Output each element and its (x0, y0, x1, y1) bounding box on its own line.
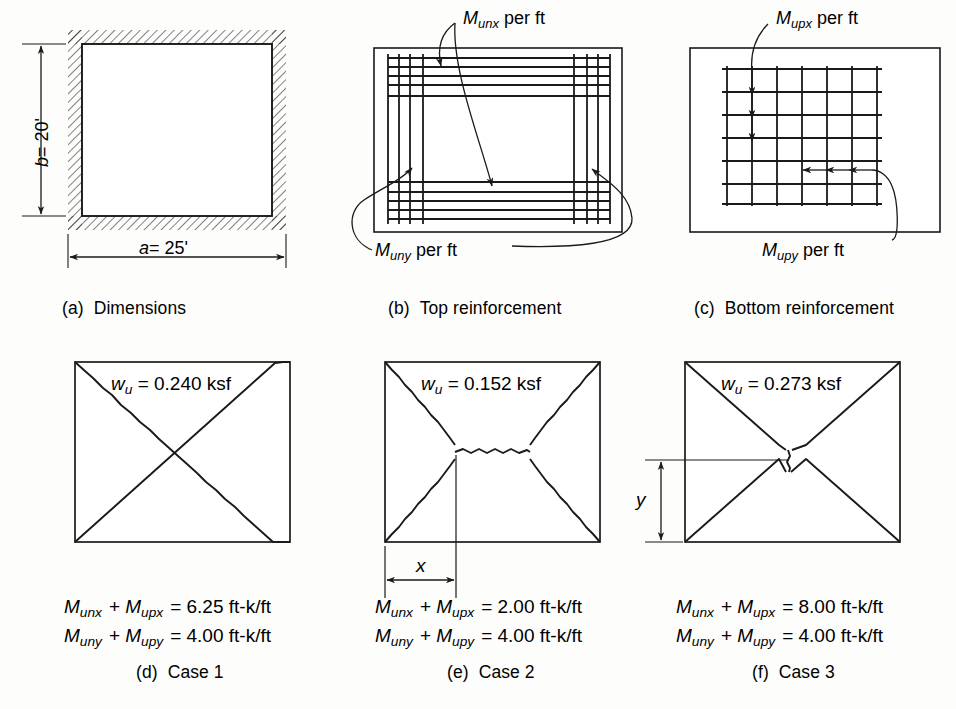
panel-e-eq1-term2: + Mupx (420, 596, 474, 620)
wu-symbol: w (111, 373, 125, 394)
wu-value: = 0.273 ksf (748, 373, 841, 394)
panel-d-caption-text: Case 1 (168, 662, 224, 682)
panel-a-caption-prefix: (a) (62, 298, 84, 318)
panel-e-eq1-rhs: = 2.00 ft-k/ft (481, 596, 582, 618)
panel-c-caption-text: Bottom reinforcement (725, 298, 894, 318)
mupx-symbol: M (776, 8, 791, 28)
panel-e-caption-text: Case 2 (479, 662, 535, 682)
panel-a-caption: (a) Dimensions (62, 300, 186, 318)
panel-b-muny-label: Muny per ft (375, 241, 457, 263)
mupy-suffix: per ft (803, 240, 844, 260)
panel-d-eq1-term2: + Mupx (109, 596, 163, 620)
panel-f-eq1-term2: + Mupx (721, 596, 775, 620)
panel-d-equations: Munx + Mupx = 6.25 ft-k/ft Muny + Mupy =… (64, 596, 271, 649)
panel-e-eq2-term2: + Mupy (420, 625, 474, 649)
panel-f-eq1-term1: Munx (676, 596, 714, 620)
width-symbol: a (139, 238, 149, 258)
panel-f-load-label: wu = 0.273 ksf (721, 374, 841, 397)
panel-f-caption: (f) Case 3 (752, 664, 835, 682)
panel-a-slab-outline (82, 44, 272, 216)
mupy-symbol: M (762, 240, 777, 260)
panel-c-mupx-label: Mupx per ft (776, 9, 858, 31)
panel-c-bottom-reinforcement (690, 24, 940, 240)
munx-symbol: M (463, 8, 478, 28)
panel-a-caption-text: Dimensions (94, 298, 186, 318)
panel-b-caption-text: Top reinforcement (420, 298, 562, 318)
panel-a-dimensions (22, 30, 286, 268)
panel-f-eq2-term1: Muny (676, 625, 714, 649)
wu-value: = 0.152 ksf (448, 373, 541, 394)
panel-f-equations: Munx + Mupx = 8.00 ft-k/ft Muny + Mupy =… (676, 596, 883, 649)
panel-f-eq2-term2: + Mupy (721, 625, 775, 649)
panel-e-x-label: x (416, 556, 426, 575)
wu-subscript: u (435, 382, 443, 397)
muny-symbol: M (375, 240, 390, 260)
panel-f-eq1-rhs: = 8.00 ft-k/ft (782, 596, 883, 618)
panel-f-caption-text: Case 3 (779, 662, 835, 682)
panel-f-caption-prefix: (f) (752, 662, 769, 682)
panel-d-load-label: wu = 0.240 ksf (111, 374, 231, 397)
panel-c-caption-prefix: (c) (694, 298, 715, 318)
munx-subscript: unx (478, 16, 499, 31)
wu-subscript: u (125, 382, 133, 397)
munx-suffix: per ft (504, 8, 545, 28)
wu-value: = 0.240 ksf (138, 373, 231, 394)
panel-e-caption-prefix: (e) (447, 662, 469, 682)
muny-subscript: uny (390, 248, 411, 263)
panel-e-equations: Munx + Mupx = 2.00 ft-k/ft Muny + Mupy =… (375, 596, 582, 649)
panel-d-caption-prefix: (d) (136, 662, 158, 682)
panel-d-eq2-term1: Muny (64, 625, 102, 649)
figure-root: b= 20' a= 25' Munx per ft Muny per ft Mu… (0, 0, 956, 709)
wu-symbol: w (721, 373, 735, 394)
panel-e-caption: (e) Case 2 (447, 664, 535, 682)
wu-symbol: w (421, 373, 435, 394)
panel-b-top-reinforcement (352, 23, 632, 250)
mupy-subscript: upy (777, 248, 798, 263)
panel-b-caption: (b) Top reinforcement (388, 300, 561, 318)
panel-d-eq1-term1: Munx (64, 596, 102, 620)
panel-d-eq2-rhs: = 4.00 ft-k/ft (170, 625, 271, 647)
panel-b-caption-prefix: (b) (388, 298, 410, 318)
panel-f-y-label: y (636, 490, 646, 509)
height-symbol: b (32, 157, 52, 167)
width-value: = 25' (149, 238, 188, 258)
panel-e-eq1-term1: Munx (375, 596, 413, 620)
muny-suffix: per ft (416, 240, 457, 260)
mupx-suffix: per ft (817, 8, 858, 28)
panel-d-eq2-term2: + Mupy (109, 625, 163, 649)
panel-f-eq2-rhs: = 4.00 ft-k/ft (782, 625, 883, 647)
panel-d-caption: (d) Case 1 (136, 664, 224, 682)
panel-b-munx-label: Munx per ft (463, 9, 545, 31)
mupx-subscript: upx (791, 16, 812, 31)
panel-e-eq2-rhs: = 4.00 ft-k/ft (481, 625, 582, 647)
panel-d-eq1-rhs: = 6.25 ft-k/ft (170, 596, 271, 618)
panel-e-eq2-term1: Muny (375, 625, 413, 649)
wu-subscript: u (735, 382, 743, 397)
panel-a-height-dimension-label: b= 20' (33, 167, 82, 185)
panel-c-mupy-label: Mupy per ft (762, 241, 844, 263)
height-value: = 20' (32, 118, 52, 157)
panel-a-width-dimension-label: a= 25' (139, 239, 188, 257)
panel-e-load-label: wu = 0.152 ksf (421, 374, 541, 397)
panel-c-caption: (c) Bottom reinforcement (694, 300, 894, 318)
